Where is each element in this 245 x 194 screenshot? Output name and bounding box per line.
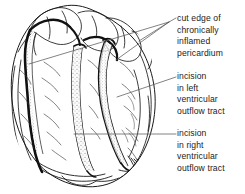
annotation-line: pericardium [177,48,223,60]
annotation-line: ventricular [177,151,225,163]
annotation-line: cut edge of [177,13,223,25]
annotation-line: outflow tract [177,106,225,118]
annotation-line: outflow tract [177,163,225,175]
annotation-line: incision [177,128,225,140]
annotation-line: in right [177,140,225,152]
annotation-line: chronically [177,25,223,37]
leader-pericardium-dash [169,18,176,22]
annotation-line: incision [177,71,225,83]
annotation-line: ventricular [177,94,225,106]
annotation-cut-edge-of-chronically-inflamed-pericardium: cut edge of chronically inflamed pericar… [177,13,223,59]
annotation-line: in left [177,83,225,95]
leader-pericardium-near [139,22,169,41]
anatomical-figure: cut edge of chronically inflamed pericar… [0,0,245,194]
annotation-incision-in-left-ventricular-outflow-tract: incision in left ventricular outflow tra… [177,71,225,117]
annotation-incision-in-right-ventricular-outflow-tract: incision in right ventricular outflow tr… [177,128,225,174]
annotation-line: inflamed [177,36,223,48]
